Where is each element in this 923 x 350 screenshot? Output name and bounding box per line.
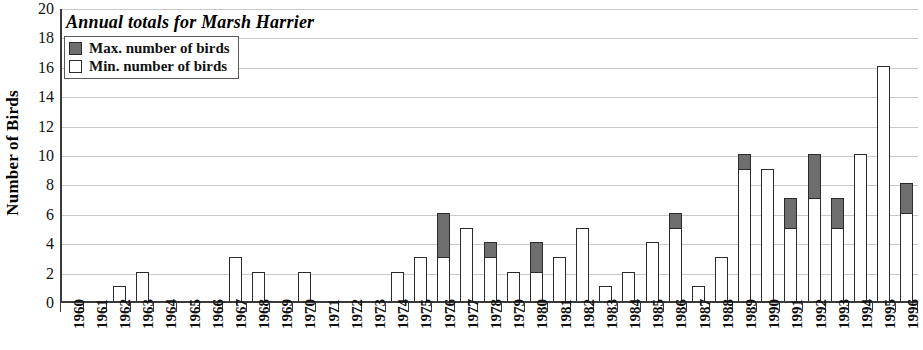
bar-segment-min[interactable] — [761, 169, 774, 301]
x-axis-label-slot: 1960 — [60, 312, 83, 350]
bar-stack[interactable] — [576, 228, 589, 302]
bar-segment-min[interactable] — [484, 257, 497, 301]
x-axis-label-slot: 1977 — [454, 312, 477, 350]
bar-segment-min[interactable] — [553, 257, 566, 301]
bar-stack[interactable] — [738, 154, 751, 301]
bar-stack[interactable] — [761, 169, 774, 301]
y-axis-title: Number of Birds — [0, 0, 26, 305]
bar-slot — [247, 9, 270, 301]
bar-slot — [779, 9, 802, 301]
bar-segment-min[interactable] — [646, 242, 659, 301]
x-axis-label-slot: 1983 — [593, 312, 616, 350]
bar-stack[interactable] — [877, 66, 890, 301]
bar-segment-min[interactable] — [530, 272, 543, 301]
bar-stack[interactable] — [854, 154, 867, 301]
bar-segment-min[interactable] — [854, 154, 867, 301]
bar-segment-min[interactable] — [136, 272, 149, 301]
y-axis-tick-label: 20 — [38, 1, 54, 17]
bar-stack[interactable] — [437, 213, 450, 301]
x-axis-label-slot: 1965 — [176, 312, 199, 350]
bar-segment-min[interactable] — [298, 272, 311, 301]
bar-segment-max[interactable] — [784, 198, 797, 227]
bar-stack[interactable] — [136, 272, 149, 301]
bar-slot — [594, 9, 617, 301]
bar-stack[interactable] — [831, 198, 844, 301]
bar-segment-min[interactable] — [229, 257, 242, 301]
bar-slot — [479, 9, 502, 301]
bar-slot — [872, 9, 895, 301]
bar-segment-min[interactable] — [576, 228, 589, 302]
bar-stack[interactable] — [414, 257, 427, 301]
bar-stack[interactable] — [669, 213, 682, 301]
bar-segment-max[interactable] — [808, 154, 821, 198]
bar-slot — [571, 9, 594, 301]
y-axis-tick-label: 16 — [38, 60, 54, 76]
bar-stack[interactable] — [622, 272, 635, 301]
bar-segment-min[interactable] — [738, 169, 751, 301]
x-axis-tick-label: 1996 — [906, 299, 921, 329]
bar-stack[interactable] — [808, 154, 821, 301]
bar-segment-max[interactable] — [437, 213, 450, 257]
bar-slot — [756, 9, 779, 301]
bar-stack[interactable] — [460, 228, 473, 302]
bar-segment-max[interactable] — [669, 213, 682, 228]
bar-segment-min[interactable] — [391, 272, 404, 301]
bar-segment-max[interactable] — [900, 183, 913, 212]
bar-segment-min[interactable] — [831, 228, 844, 302]
x-axis-label-slot: 1993 — [825, 312, 848, 350]
bar-segment-min[interactable] — [622, 272, 635, 301]
x-axis-label-slot: 1981 — [547, 312, 570, 350]
bar-slot — [293, 9, 316, 301]
bar-segment-min[interactable] — [252, 272, 265, 301]
bar-stack[interactable] — [229, 257, 242, 301]
x-axis-label-slot: 1975 — [408, 312, 431, 350]
x-axis-label-slot: 1996 — [895, 312, 918, 350]
y-axis-tick-label: 6 — [46, 207, 54, 223]
bar-segment-max[interactable] — [484, 242, 497, 257]
bar-segment-min[interactable] — [460, 228, 473, 302]
chart-title: Annual totals for Marsh Harrier — [66, 12, 314, 33]
bar-segment-min[interactable] — [784, 228, 797, 302]
bar-slot — [548, 9, 571, 301]
chart-page: Number of Birds 20181614121086420 196019… — [0, 0, 923, 350]
x-axis-label-slot: 1988 — [709, 312, 732, 350]
bar-stack[interactable] — [530, 242, 543, 301]
bar-segment-min[interactable] — [808, 198, 821, 301]
bar-segment-min[interactable] — [900, 213, 913, 301]
bar-stack[interactable] — [252, 272, 265, 301]
x-axis-label-slot: 1974 — [385, 312, 408, 350]
bar-segment-max[interactable] — [738, 154, 751, 169]
bar-stack[interactable] — [484, 242, 497, 301]
x-axis-label-slot: 1964 — [153, 312, 176, 350]
bar-slot — [664, 9, 687, 301]
legend-item-min: Min. number of birds — [69, 57, 230, 75]
bar-segment-max[interactable] — [831, 198, 844, 227]
bar-segment-max[interactable] — [530, 242, 543, 271]
bar-stack[interactable] — [715, 257, 728, 301]
bar-stack[interactable] — [784, 198, 797, 301]
y-axis-tick-label: 4 — [46, 236, 54, 252]
bar-segment-min[interactable] — [877, 66, 890, 301]
x-axis-label-slot: 1966 — [199, 312, 222, 350]
y-axis-tick-label: 10 — [38, 148, 54, 164]
bar-segment-min[interactable] — [715, 257, 728, 301]
bar-stack[interactable] — [298, 272, 311, 301]
y-axis-tick-label: 0 — [46, 295, 54, 311]
bar-slot — [710, 9, 733, 301]
x-axis-tick-labels: 1960196119621963196419651966196719681969… — [60, 312, 918, 350]
bar-segment-min[interactable] — [669, 228, 682, 302]
legend-label-max: Max. number of birds — [89, 41, 230, 56]
bar-stack[interactable] — [553, 257, 566, 301]
x-axis-label-slot: 1978 — [477, 312, 500, 350]
x-axis-label-slot: 1972 — [338, 312, 361, 350]
bar-stack[interactable] — [900, 183, 913, 301]
legend-item-max: Max. number of birds — [69, 39, 230, 57]
bar-stack[interactable] — [507, 272, 520, 301]
bar-segment-min[interactable] — [414, 257, 427, 301]
bar-segment-min[interactable] — [507, 272, 520, 301]
bar-segment-min[interactable] — [437, 257, 450, 301]
bar-slot — [270, 9, 293, 301]
bar-slot — [849, 9, 872, 301]
bar-stack[interactable] — [391, 272, 404, 301]
bar-stack[interactable] — [646, 242, 659, 301]
